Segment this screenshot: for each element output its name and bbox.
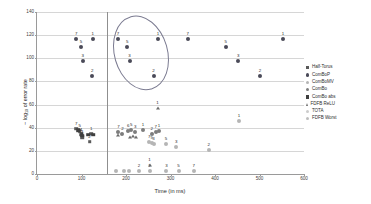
legend-item-label: ComBoMV <box>312 80 334 85</box>
data-point-label: 1 <box>156 101 158 105</box>
vertical-divider <box>107 12 108 174</box>
data-point <box>91 133 95 137</box>
data-point-label: 5 <box>80 39 82 43</box>
data-point-label: 2 <box>208 142 210 146</box>
data-point <box>164 169 168 173</box>
data-point-label: 3 <box>175 140 177 144</box>
data-point-label: 5 <box>130 123 132 127</box>
data-point <box>174 145 178 149</box>
y-tick-label: 20 <box>29 149 37 154</box>
legend-item-label: Half-Torus <box>312 65 333 70</box>
data-point <box>116 37 120 41</box>
data-point-label: 3 <box>128 53 130 57</box>
data-point <box>125 45 129 49</box>
legend-marker-icon <box>306 81 309 84</box>
y-tick-label: 80 <box>29 79 37 84</box>
legend-item-label: FDFB Worst <box>312 116 337 121</box>
y-tick-label: 100 <box>26 56 37 61</box>
legend-item[interactable]: FDFB ReLU <box>306 100 368 107</box>
data-point <box>127 169 131 173</box>
data-point <box>91 37 95 41</box>
data-point <box>237 119 241 123</box>
data-point-label: 7 <box>117 31 119 35</box>
y-axis-title: − log10 of error rate <box>23 79 29 125</box>
chart-legend: Half-TorusComBoPComBoMVComBoComBo absFDF… <box>306 64 368 122</box>
data-point-label: 1 <box>157 31 159 35</box>
data-point-label: 2 <box>138 163 140 167</box>
legend-marker-icon <box>306 88 309 91</box>
data-point-label: 7 <box>75 121 77 125</box>
y-tick-label: 140 <box>26 10 37 15</box>
legend-item[interactable]: ComBoMV <box>306 79 368 86</box>
legend-item[interactable]: ComBoP <box>306 71 368 78</box>
legend-item-label: ComBo abs <box>312 95 336 100</box>
legend-item-label: TOTA <box>312 109 324 114</box>
data-point <box>177 169 181 173</box>
legend-marker-icon <box>306 66 309 69</box>
y-gridline <box>37 12 304 13</box>
legend-item[interactable]: FDFB Worst <box>306 115 368 122</box>
data-point <box>120 132 124 136</box>
data-point <box>258 74 262 78</box>
data-point <box>186 37 190 41</box>
data-point <box>152 74 156 78</box>
data-point-label: 2 <box>151 126 153 130</box>
data-point <box>224 45 228 49</box>
legend-item[interactable]: TOTA <box>306 108 368 115</box>
data-point <box>207 148 211 152</box>
scatter-chart-figure: 0204060801001201400100200300400500600754… <box>0 0 371 204</box>
y-axis-title-prefix: − log <box>22 113 28 125</box>
legend-item[interactable]: ComBo <box>306 86 368 93</box>
data-point-label: 5 <box>126 39 128 43</box>
y-tick-label: 60 <box>29 102 37 107</box>
data-point <box>114 169 118 173</box>
data-point-label: 2 <box>121 126 123 130</box>
data-point-label: 1 <box>142 123 144 127</box>
y-gridline <box>37 81 304 82</box>
data-point <box>137 169 141 173</box>
legend-item-label: ComBoP <box>312 73 330 78</box>
data-point <box>128 59 132 63</box>
data-point-label: 3 <box>237 53 239 57</box>
data-point-label: 7 <box>117 125 119 129</box>
data-point-label: 1 <box>90 126 92 130</box>
data-point-label: 7 <box>192 163 194 167</box>
data-point <box>281 37 285 41</box>
data-point <box>157 129 161 133</box>
data-point <box>236 59 240 63</box>
data-point <box>122 169 126 173</box>
legend-item[interactable]: Half-Torus <box>306 64 368 71</box>
data-point-label: 3 <box>82 53 84 57</box>
x-tick-label: 100 <box>78 177 86 182</box>
data-point-label: 3 <box>152 137 154 141</box>
legend-item[interactable]: ComBo abs <box>306 93 368 100</box>
x-axis-title: Time (in ms) <box>36 189 304 195</box>
legend-item-label: FDFB ReLU <box>311 102 336 107</box>
data-point <box>141 128 145 132</box>
data-point <box>116 133 120 136</box>
data-point <box>134 135 138 138</box>
data-point-label: 1 <box>91 31 93 35</box>
data-point-label: 1 <box>282 31 284 35</box>
data-point-label: 5 <box>224 39 226 43</box>
y-gridline <box>37 105 304 106</box>
data-point-label: 7 <box>187 31 189 35</box>
data-point-label: 1 <box>158 124 160 128</box>
data-point <box>156 37 160 41</box>
x-tick-label: 200 <box>122 177 130 182</box>
data-point <box>81 134 85 138</box>
data-point <box>90 74 94 78</box>
legend-marker-icon <box>306 95 309 98</box>
data-point-label: 5 <box>165 137 167 141</box>
data-point <box>192 169 196 173</box>
x-tick-label: 400 <box>211 177 219 182</box>
data-point-label: 5 <box>177 163 179 167</box>
x-tick-label: 500 <box>256 177 264 182</box>
y-tick-label: 120 <box>26 33 37 38</box>
x-tick-label: 300 <box>167 177 175 182</box>
legend-marker-icon <box>306 117 309 120</box>
x-tick-label: 0 <box>36 177 39 182</box>
data-point <box>164 142 168 146</box>
data-point <box>156 107 160 110</box>
data-point-label: 1 <box>148 157 150 161</box>
